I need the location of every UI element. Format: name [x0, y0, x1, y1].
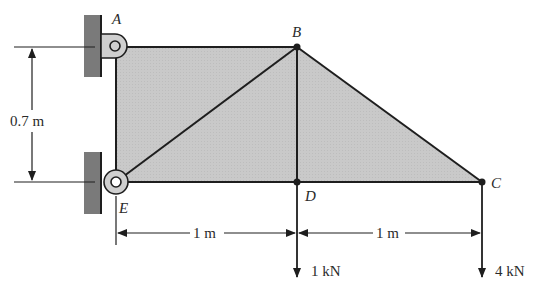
truss-fill [116, 47, 482, 182]
dimension-span-DC-label: 1 m [376, 225, 399, 241]
joint-B [294, 44, 301, 51]
label-C: C [491, 175, 502, 191]
pin-support-A [101, 34, 127, 58]
label-B: B [292, 24, 301, 40]
label-D: D [304, 188, 316, 204]
load-label-D: 1 kN [311, 263, 341, 279]
load-label-C: 4 kN [495, 263, 525, 279]
pin-support-E [104, 170, 128, 194]
wall-A [84, 15, 100, 77]
dimension-span-ED-label: 1 m [193, 225, 216, 241]
label-A: A [111, 11, 122, 27]
label-E: E [118, 200, 128, 216]
dimension-height-label: 0.7 m [10, 113, 45, 129]
wall-E [84, 152, 100, 214]
truss-diagram: A B C D E 0.7 m 1 m 1 m 1 kN 4 kN [0, 0, 543, 296]
